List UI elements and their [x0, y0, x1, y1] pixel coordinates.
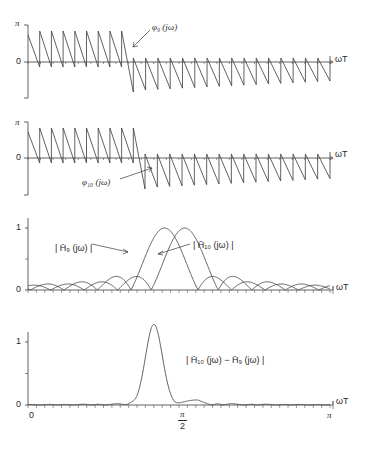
- h9-pointer: [92, 244, 128, 254]
- p1-curve-label: φ₉ (jω): [152, 23, 177, 32]
- p3-xaxis-label: ωT: [336, 283, 349, 292]
- p3-one-tick: 1: [16, 223, 21, 232]
- mag-curve-1: [28, 228, 330, 290]
- phase10-pointer: [120, 167, 152, 179]
- p1-pi-tick: π: [15, 19, 20, 28]
- p1-xaxis-label: ωT: [335, 55, 348, 64]
- phase10-y-axis: [24, 122, 28, 195]
- p3-zero-tick: 0: [16, 285, 21, 294]
- p4-zero-tick: 0: [16, 400, 21, 409]
- p2-zero-tick: 0: [16, 153, 21, 162]
- mag-x-ticks: [28, 290, 330, 293]
- p2-xaxis-label: ωT: [335, 150, 348, 159]
- p4-x-tick-pi2-num: π: [180, 410, 185, 419]
- p4-xaxis-label: ωT: [336, 397, 349, 406]
- mag-curve-0: [28, 228, 330, 290]
- phase9-pointer: [133, 30, 150, 47]
- p4-x-tick-pi: π: [327, 411, 332, 420]
- p4-x-tick-pi2-den: 2: [180, 422, 185, 431]
- phase9-y-axis: [24, 25, 28, 98]
- p2-curve-label: φ₁₀ (jω): [82, 178, 110, 187]
- p4-x-tick-0: 0: [29, 411, 34, 420]
- p2-pi-tick: π: [15, 118, 20, 127]
- phase9-curve: [28, 31, 330, 92]
- p3-h10-label: | H̄₁₀ (jω) |: [193, 241, 233, 250]
- p3-h9-label: | H̄₉ (jω) |: [55, 244, 92, 253]
- p1-zero-tick: 0: [16, 57, 21, 66]
- chart-canvas: [0, 0, 366, 451]
- h10-pointer: [158, 244, 190, 255]
- diff-x-ticks: [28, 405, 330, 408]
- diff-curve-0: [28, 324, 330, 405]
- p4-diff-label: | H̄₁₀ (jω) − H̄₉ (jω) |: [186, 356, 264, 365]
- p4-one-tick: 1: [16, 337, 21, 346]
